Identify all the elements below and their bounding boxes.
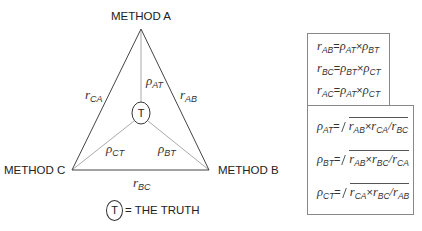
equation-r-ab: rAB=ρAT×ρBT [308,39,389,55]
spoke-ct [72,121,134,170]
equation-r-ac: rAC=ρAT×ρCT [308,83,389,99]
truth-symbol: T [138,107,145,119]
method-b-label: METHOD B [218,164,279,176]
equation-rho-bt: ρBT=rAB×rBC/rCA [308,150,413,168]
edge-label-ca: rCA [85,87,103,104]
product-equations-box: rAB=ρAT×ρBT rBC=ρBT×ρCT rAC=ρAT×ρCT [307,33,390,107]
spoke-label-at: ρAT [146,73,163,90]
root-equations-box: ρAT=rAB×rCA/rBC ρBT=rAB×rBC/rCA ρCT=rCA×… [307,105,414,215]
legend-text: = THE TRUTH [125,204,200,216]
legend: T = THE TRUTH [106,198,200,222]
edge-label-ab: rAB [180,87,197,104]
edge-label-bc: rBC [133,175,151,192]
legend-truth-circle: T [106,200,123,221]
spoke-label-ct: ρCT [106,141,124,158]
equation-r-bc: rBC=ρBT×ρCT [308,61,389,77]
equation-rho-ct: ρCT=rCA×rBC/rAB [308,183,413,201]
method-a-label: METHOD A [111,10,171,22]
spoke-label-bt: ρBT [158,141,176,158]
equation-rho-at: ρAT=rAB×rCA/rBC [308,117,413,135]
method-c-label: METHOD C [4,164,65,176]
